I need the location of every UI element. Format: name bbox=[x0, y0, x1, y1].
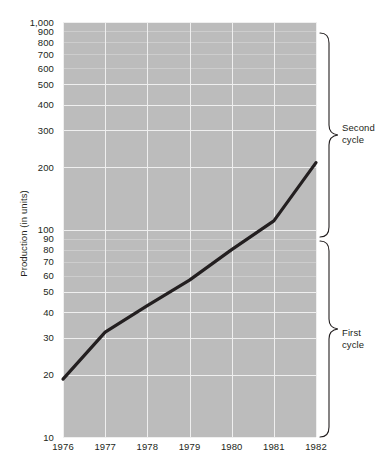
y-axis-title: Production (in units) bbox=[18, 159, 29, 309]
x-axis-tick-label: 1982 bbox=[305, 441, 327, 452]
y-axis-tick-label: 900 bbox=[38, 27, 54, 37]
production-log-chart: 1,00090080070060050040030020010090807060… bbox=[0, 0, 387, 476]
y-axis-tick-label: 20 bbox=[43, 370, 54, 380]
y-axis-tick-label: 300 bbox=[38, 126, 54, 136]
x-axis-tick-label: 1979 bbox=[179, 441, 201, 452]
second-cycle-label-line1: Second bbox=[342, 122, 375, 134]
x-axis-tick-label: 1981 bbox=[263, 441, 285, 452]
y-axis-tick-label: 50 bbox=[43, 287, 54, 297]
y-axis-tick-label: 500 bbox=[38, 80, 54, 90]
y-axis-tick-label: 30 bbox=[43, 333, 54, 343]
first-cycle-label-line2: cycle bbox=[342, 339, 364, 351]
y-axis-tick-label: 600 bbox=[38, 64, 54, 74]
cycle-braces bbox=[318, 22, 340, 442]
y-axis-tick-label: 800 bbox=[38, 38, 54, 48]
second-cycle-label: Second cycle bbox=[342, 122, 375, 146]
x-axis-tick-label: 1977 bbox=[94, 441, 116, 452]
y-axis-tick-label: 80 bbox=[43, 245, 54, 255]
first-cycle-label: First cycle bbox=[342, 327, 364, 351]
first-cycle-label-line1: First bbox=[342, 327, 364, 339]
second-cycle-label-line2: cycle bbox=[342, 134, 375, 146]
y-axis-tick-label: 60 bbox=[43, 271, 54, 281]
y-axis-tick-label: 400 bbox=[38, 100, 54, 110]
y-axis-tick-label: 700 bbox=[38, 50, 54, 60]
x-axis-tick-label: 1978 bbox=[137, 441, 159, 452]
y-axis-tick-label: 90 bbox=[43, 234, 54, 244]
x-axis-tick-labels: 1976197719781979198019811982 bbox=[0, 441, 387, 457]
y-axis-tick-label: 200 bbox=[38, 163, 54, 173]
series-polyline bbox=[63, 163, 316, 380]
gridline-vertical bbox=[316, 22, 317, 437]
series-line-production bbox=[63, 22, 316, 437]
x-axis-tick-label: 1976 bbox=[52, 441, 74, 452]
y-axis-tick-label: 40 bbox=[43, 308, 54, 318]
x-axis-tick-label: 1980 bbox=[221, 441, 243, 452]
y-axis-tick-label: 70 bbox=[43, 257, 54, 267]
second-cycle-brace bbox=[320, 33, 338, 237]
gridline-horizontal bbox=[63, 437, 316, 438]
first-cycle-brace bbox=[320, 241, 338, 437]
y-axis-tick-labels: 1,00090080070060050040030020010090807060… bbox=[0, 0, 60, 476]
